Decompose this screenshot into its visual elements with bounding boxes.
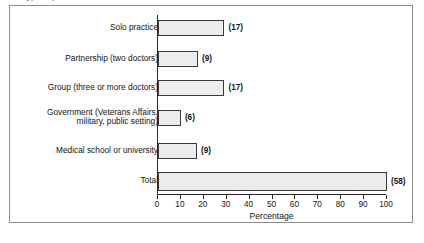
bar-chart-plot: 0102030405060708090100 (17)(9)(17)(6)(9)… — [10, 6, 414, 224]
category-label: Solo practice — [16, 23, 158, 33]
category-label: Group (three or more doctors) — [16, 83, 158, 93]
clipped-caption-strip: Type of practice — [0, 0, 424, 4]
bar — [158, 20, 224, 36]
bar — [158, 143, 197, 159]
x-tick-30 — [226, 195, 227, 199]
x-tick-label-80: 80 — [336, 200, 345, 209]
x-tick-label-60: 60 — [290, 200, 299, 209]
x-tick-80 — [340, 195, 341, 199]
category-label: Partnership (two doctors) — [16, 54, 158, 64]
bar — [158, 172, 387, 191]
x-tick-0 — [157, 195, 158, 199]
x-tick-70 — [317, 195, 318, 199]
clipped-caption-text: Type of practice — [22, 0, 82, 1]
bar-value-label: (58) — [391, 177, 406, 186]
x-axis-title: Percentage — [157, 211, 386, 221]
x-tick-90 — [363, 195, 364, 199]
category-label: Government (Veterans Affairs, military, … — [16, 108, 158, 127]
x-tick-label-40: 40 — [244, 200, 253, 209]
x-tick-label-20: 20 — [198, 200, 207, 209]
x-tick-label-0: 0 — [155, 200, 160, 209]
bar — [158, 110, 181, 126]
bar-value-label: (9) — [201, 146, 211, 155]
x-tick-50 — [272, 195, 273, 199]
bar-value-label: (6) — [185, 113, 195, 122]
x-tick-label-30: 30 — [221, 200, 230, 209]
category-label: Total — [16, 176, 158, 186]
x-tick-label-70: 70 — [313, 200, 322, 209]
bar-value-label: (9) — [202, 54, 212, 63]
figure-frame: 0102030405060708090100 (17)(9)(17)(6)(9)… — [9, 5, 413, 223]
x-tick-10 — [180, 195, 181, 199]
x-tick-40 — [249, 195, 250, 199]
x-tick-label-90: 90 — [359, 200, 368, 209]
bar — [158, 51, 198, 67]
bar-value-label: (17) — [228, 83, 243, 92]
x-tick-label-100: 100 — [379, 200, 393, 209]
x-tick-100 — [386, 195, 387, 199]
x-tick-label-50: 50 — [267, 200, 276, 209]
bar — [158, 80, 224, 96]
x-tick-label-10: 10 — [175, 200, 184, 209]
x-tick-60 — [294, 195, 295, 199]
x-tick-20 — [203, 195, 204, 199]
bar-value-label: (17) — [228, 23, 243, 32]
category-label: Medical school or university — [16, 146, 158, 156]
y-axis-line — [157, 15, 158, 195]
